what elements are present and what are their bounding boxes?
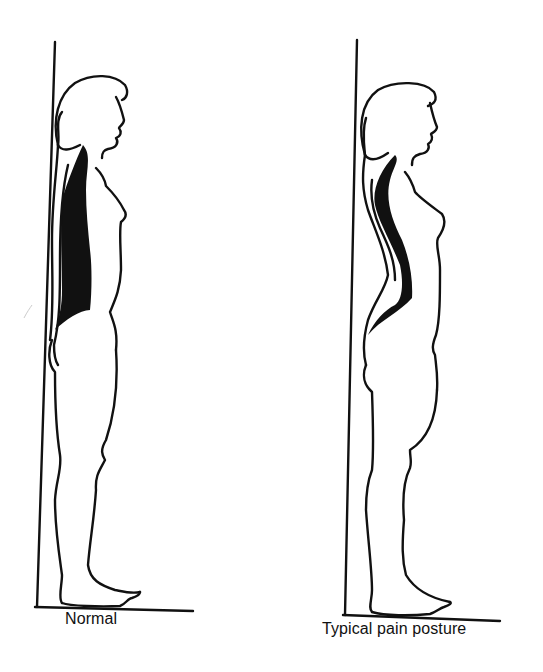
pain-posture-figure — [343, 40, 500, 621]
hair-back — [58, 112, 62, 145]
stray-mark — [24, 305, 32, 318]
neck-back — [365, 153, 388, 159]
caption-pain-posture: Typical pain posture — [322, 620, 466, 638]
chest-front — [96, 168, 126, 350]
wall-line — [345, 40, 357, 615]
head-outline — [361, 83, 435, 155]
face-profile — [412, 103, 437, 165]
head-outline — [56, 76, 127, 145]
face-profile — [102, 97, 124, 158]
posture-figure: Normal Typical pain posture — [0, 0, 543, 672]
normal-figure — [35, 42, 193, 611]
spine-shading — [368, 155, 412, 335]
hair-back — [364, 118, 366, 155]
foot — [62, 592, 140, 606]
neck-back — [58, 145, 80, 150]
buttock-leg-back — [364, 365, 373, 612]
foot — [372, 602, 451, 615]
leg-front — [403, 390, 450, 602]
buttock-leg-back — [49, 340, 62, 603]
caption-normal: Normal — [65, 610, 117, 628]
leg-front — [88, 350, 140, 593]
posture-drawing — [0, 0, 543, 672]
